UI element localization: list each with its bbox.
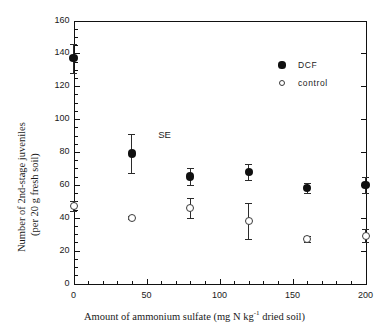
legend-label-control: control (298, 78, 328, 88)
error-bar-cap-bottom (187, 218, 194, 219)
y-tick-minor (75, 94, 78, 95)
x-axis-label-suffix: dried soil) (260, 311, 306, 322)
x-tick-minor (322, 281, 323, 284)
y-tick-minor (75, 267, 78, 268)
x-tick-minor (249, 281, 250, 284)
legend-label-dcf: DCF (298, 60, 317, 70)
legend-marker-control (279, 80, 286, 87)
y-tick-major (75, 284, 80, 285)
x-tick-major (220, 279, 221, 284)
y-tick-major (75, 185, 80, 186)
y-tick-minor (75, 193, 78, 194)
x-tick-major (366, 279, 367, 284)
chart-figure: Number of 2nd-stage juveniles (per 20 g … (0, 0, 389, 334)
data-point-control[interactable] (186, 204, 194, 212)
data-point-control[interactable] (362, 232, 370, 240)
y-tick-label: 60 (34, 179, 70, 189)
y-tick-major-right (361, 251, 366, 252)
data-point-dcf[interactable] (186, 172, 194, 180)
y-tick-major-right (361, 218, 366, 219)
y-tick-major (75, 152, 80, 153)
x-tick-major (74, 279, 75, 284)
y-tick-minor (75, 37, 78, 38)
x-tick-minor (234, 281, 235, 284)
error-bar-cap-bottom (304, 193, 311, 194)
x-tick-minor (161, 281, 162, 284)
x-tick-label: 100 (200, 290, 240, 300)
y-tick-major-right (361, 86, 366, 87)
error-bar-cap-bottom (362, 193, 369, 194)
x-tick-minor (88, 281, 89, 284)
y-tick-label: 0 (34, 278, 70, 288)
error-bar-cap-top (362, 229, 369, 230)
error-bar-cap-bottom (362, 242, 369, 243)
data-point-control[interactable] (245, 217, 253, 225)
x-tick-major (293, 279, 294, 284)
y-tick-major-right (361, 21, 366, 22)
error-bar-cap-top (362, 177, 369, 178)
data-point-dcf[interactable] (361, 181, 369, 189)
x-tick-minor (103, 281, 104, 284)
x-tick-minor (176, 281, 177, 284)
y-tick-minor (75, 78, 78, 79)
y-tick-label: 120 (34, 80, 70, 90)
y-tick-major-right (361, 152, 366, 153)
plot-top-border (74, 21, 367, 22)
y-tick-major (75, 251, 80, 252)
y-tick-minor (75, 111, 78, 112)
x-tick-label: 0 (54, 290, 94, 300)
x-tick-minor (263, 281, 264, 284)
x-tick-minor (278, 281, 279, 284)
y-tick-minor (75, 275, 78, 276)
se-annotation: SE (158, 129, 171, 140)
error-bar-cap-bottom (70, 211, 77, 212)
error-bar-cap-top (245, 203, 252, 204)
data-point-dcf[interactable] (128, 149, 136, 157)
error-bar-cap-bottom (128, 173, 135, 174)
y-tick-label: 100 (34, 113, 70, 123)
y-tick-minor (75, 127, 78, 128)
y-tick-minor (75, 45, 78, 46)
data-point-control[interactable] (128, 214, 136, 222)
error-bar-cap-bottom (70, 73, 77, 74)
y-tick-minor (75, 136, 78, 137)
error-bar-cap-top (187, 168, 194, 169)
y-tick-minor (75, 226, 78, 227)
x-tick-label: 50 (127, 290, 167, 300)
x-axis-label-prefix: Amount of ammonium sulfate (mg N kg (84, 311, 254, 322)
y-tick-minor (75, 177, 78, 178)
data-point-control[interactable] (70, 202, 78, 210)
y-axis-label-line2: (per 20 g fresh soil) (29, 153, 40, 236)
y-tick-major (75, 218, 80, 219)
y-tick-minor (75, 168, 78, 169)
y-tick-minor (75, 160, 78, 161)
y-tick-minor (75, 242, 78, 243)
x-tick-minor (336, 281, 337, 284)
x-tick-label: 200 (346, 290, 386, 300)
x-tick-label: 150 (273, 290, 313, 300)
x-axis-line (74, 284, 367, 285)
error-bar-cap-top (245, 164, 252, 165)
legend-marker-dcf (278, 61, 285, 68)
x-axis-label: Amount of ammonium sulfate (mg N kg-1 dr… (0, 309, 389, 322)
error-bar-cap-top (128, 134, 135, 135)
y-tick-minor (75, 70, 78, 71)
x-tick-minor (190, 281, 191, 284)
error-bar-cap-bottom (187, 185, 194, 186)
data-point-dcf[interactable] (245, 168, 253, 176)
x-tick-major (147, 279, 148, 284)
x-tick-minor (117, 281, 118, 284)
y-tick-major (75, 21, 80, 22)
y-tick-label: 80 (34, 146, 70, 156)
y-tick-label: 160 (34, 15, 70, 25)
y-tick-major-right (361, 53, 366, 54)
x-tick-minor (205, 281, 206, 284)
y-tick-label: 20 (34, 245, 70, 255)
x-tick-minor (351, 281, 352, 284)
y-tick-minor (75, 259, 78, 260)
y-tick-label: 40 (34, 212, 70, 222)
y-tick-minor (75, 144, 78, 145)
y-tick-minor (75, 103, 78, 104)
y-tick-major (75, 86, 80, 87)
data-point-dcf[interactable] (303, 184, 311, 192)
